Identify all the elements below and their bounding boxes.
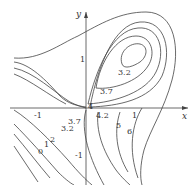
contour-label: 0 — [38, 148, 43, 156]
x-tick-neg1: -1 — [34, 112, 42, 120]
contour-label: 5 — [116, 122, 121, 130]
contour-label: 2 — [50, 136, 55, 144]
contour-plot: x y -1 1 1 -1 3.2 3.7 4 4.2 5 6 3.7 3.2 … — [0, 0, 193, 185]
contour-label: 6 — [127, 128, 132, 136]
x-tick-1: 1 — [132, 112, 137, 120]
contour-label: 1 — [44, 141, 49, 149]
x-axis-label: x — [182, 112, 187, 121]
y-axis-label: y — [76, 10, 81, 19]
contour-label: 3.7 — [100, 88, 113, 96]
contour-label: 4.2 — [96, 112, 109, 120]
y-tick-neg1: -1 — [75, 152, 83, 160]
y-tick-1: 1 — [80, 56, 85, 64]
contour-lines — [0, 0, 193, 185]
contour-label: 3.2 — [118, 69, 131, 77]
contour-label: 4 — [88, 103, 93, 111]
contour-label: 3.2 — [61, 125, 74, 133]
